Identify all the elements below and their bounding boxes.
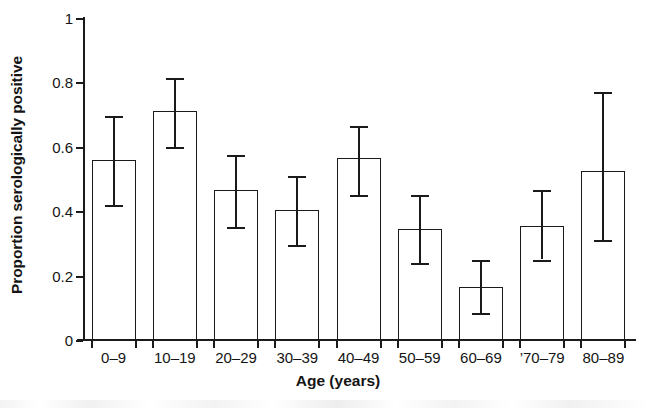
error-bar-stem [541,190,543,259]
scan-artifact [0,400,648,408]
y-tick-label: 0.6 [52,138,73,155]
x-tick-mark [152,341,154,348]
y-tick-label: 0 [65,332,73,349]
error-bar-cap-upper [350,126,368,128]
error-bar-cap-upper [472,260,490,262]
y-tick-label: 0.8 [52,74,73,91]
x-tick-mark [91,341,93,348]
error-bar-cap-upper [227,155,245,157]
x-tick-label: ’70–79 [520,349,565,366]
x-tick-label: 60–69 [460,349,502,366]
error-bar-stem [602,92,604,240]
x-tick-label: 10–19 [154,349,196,366]
error-bar-cap-lower [288,245,306,247]
error-bar-stem [113,116,115,205]
x-tick-mark [135,341,137,348]
x-tick-mark [441,341,443,348]
error-bar-cap-upper [288,176,306,178]
error-bar-cap-upper [594,92,612,94]
x-tick-mark [257,341,259,348]
x-axis-title: Age (years) [0,372,648,390]
y-tick-mark [76,340,83,342]
error-bar-stem [296,176,298,245]
x-tick-label: 50–59 [399,349,441,366]
error-bar-stem [419,195,421,263]
error-bar-cap-lower [411,263,429,265]
error-bar-stem [480,260,482,313]
error-bar-cap-lower [227,227,245,229]
bar-chart-figure: Proportion serologically positive 00.20.… [0,0,648,408]
error-bar-cap-lower [472,313,490,315]
y-tick-mark [76,18,83,20]
x-tick-label: 0–9 [101,349,126,366]
x-tick-label: 30–39 [276,349,318,366]
error-bar-stem [174,78,176,147]
y-axis-title-text: Proportion serologically positive [8,56,26,294]
error-bar-cap-lower [166,147,184,149]
y-tick-label: 1 [65,10,73,27]
y-tick-mark [76,211,83,213]
x-tick-mark [213,341,215,348]
x-tick-mark [380,341,382,348]
x-tick-mark [580,341,582,348]
error-bar-cap-lower [350,195,368,197]
x-tick-mark [196,341,198,348]
y-tick-mark [76,82,83,84]
x-tick-mark [274,341,276,348]
y-tick-mark [76,276,83,278]
x-tick-mark [563,341,565,348]
error-bar-cap-lower [533,260,551,262]
error-bar-cap-upper [533,190,551,192]
x-tick-label: 40–49 [338,349,380,366]
error-bar-cap-lower [594,240,612,242]
x-tick-label: 20–29 [215,349,257,366]
error-bar-cap-lower [105,205,123,207]
x-tick-mark [519,341,521,348]
error-bar-stem [235,155,237,227]
x-tick-mark [318,341,320,348]
x-tick-mark [458,341,460,348]
y-axis-title: Proportion serologically positive [0,0,34,350]
error-bar-cap-upper [105,116,123,118]
x-tick-mark [397,341,399,348]
x-tick-mark [336,341,338,348]
x-axis-title-text: Age (years) [296,372,380,389]
x-tick-label: 80–89 [583,349,625,366]
x-tick-mark [502,341,504,348]
y-tick-label: 0.2 [52,267,73,284]
error-bar-cap-upper [411,195,429,197]
y-tick-label: 0.4 [52,203,73,220]
y-tick-mark [76,147,83,149]
error-bar-stem [358,126,360,195]
x-tick-mark [624,341,626,348]
error-bar-cap-upper [166,78,184,80]
